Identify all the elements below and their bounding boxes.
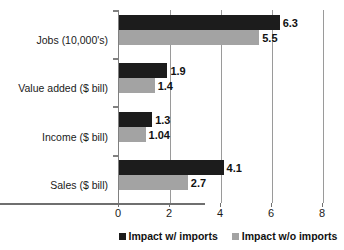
bar-value-label: 1.9 [170, 66, 185, 77]
category-axis-labels: Jobs (10,000's)Value added ($ bill)Incom… [0, 10, 112, 203]
x-axis-tick-label: 8 [319, 208, 325, 219]
x-axis-tick-label: 4 [217, 208, 223, 219]
x-axis-tick-label: 2 [166, 208, 172, 219]
legend-label: Impact w/ imports [129, 231, 218, 242]
bar-value-label: 4.1 [227, 163, 242, 174]
legend-swatch-light-icon [232, 233, 239, 240]
category-label: Value added ($ bill) [18, 83, 108, 94]
category-label: Jobs (10,000's) [37, 35, 108, 46]
bar-with-imports [119, 112, 152, 127]
bar-without-imports [119, 175, 188, 190]
bar-chart: Jobs (10,000's)Value added ($ bill)Incom… [0, 0, 344, 250]
legend-swatch-dark-icon [119, 233, 126, 240]
legend-item-with-imports[interactable]: Impact w/ imports [119, 231, 218, 242]
bar-value-label: 1.3 [155, 115, 170, 126]
bar-value-label: 6.3 [283, 18, 298, 29]
bar-value-label: 2.7 [191, 178, 206, 189]
category-label: Sales ($ bill) [50, 180, 108, 191]
x-axis-tick-label: 0 [115, 208, 121, 219]
category-label: Income ($ bill) [42, 132, 108, 143]
bar-with-imports [119, 63, 167, 78]
bar-value-label: 1.4 [158, 81, 173, 92]
bar-value-label: 5.5 [262, 33, 277, 44]
bar-value-label: 1.04 [149, 130, 170, 141]
bar-without-imports [119, 78, 155, 93]
x-axis-tick-label: 6 [268, 208, 274, 219]
legend-item-without-imports[interactable]: Impact w/o imports [232, 231, 338, 242]
legend-label: Impact w/o imports [242, 231, 338, 242]
gridline [323, 10, 324, 203]
chart-legend: Impact w/ imports Impact w/o imports [118, 231, 338, 242]
bar-without-imports [119, 127, 146, 142]
x-axis-line [0, 203, 205, 205]
bar-without-imports [119, 30, 259, 45]
bar-with-imports [119, 160, 224, 175]
bar-with-imports [119, 15, 280, 30]
plot-area [118, 10, 322, 203]
